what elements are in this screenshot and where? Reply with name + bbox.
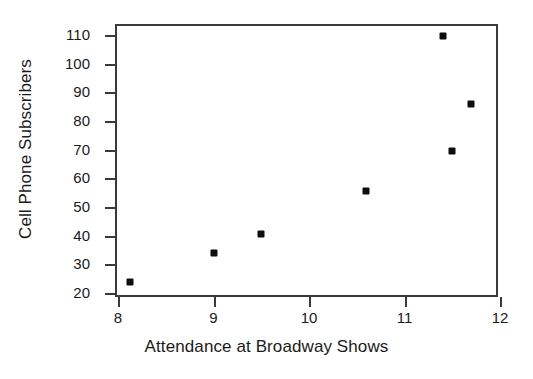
y-axis-tick	[105, 121, 115, 123]
x-axis-title: Attendance at Broadway Shows	[0, 336, 533, 358]
y-axis-tick-label: 20	[44, 285, 90, 301]
data-point	[127, 278, 134, 285]
data-point	[468, 100, 475, 107]
x-axis-tick-label: 11	[397, 310, 413, 326]
scatter-chart: 2030405060708090100110 89101112 Attendan…	[0, 0, 533, 379]
y-axis-tick	[105, 293, 115, 295]
y-axis-tick	[105, 207, 115, 209]
data-point	[210, 250, 217, 257]
y-axis-tick	[105, 264, 115, 266]
plot-area	[115, 24, 498, 297]
y-axis-tick	[105, 178, 115, 180]
y-axis-tick	[105, 64, 115, 66]
x-axis-tick	[500, 297, 502, 307]
y-axis-tick	[105, 236, 115, 238]
y-axis-tick-label: 70	[44, 142, 90, 158]
x-axis-tick	[309, 297, 311, 307]
x-axis-tick-label: 10	[301, 310, 318, 326]
data-point	[439, 33, 446, 40]
x-axis-tick-label: 12	[492, 310, 509, 326]
y-axis-tick-label: 110	[44, 27, 90, 43]
x-axis-tick-label: 9	[209, 310, 217, 326]
data-point	[449, 147, 456, 154]
x-axis-tick-label: 8	[114, 310, 122, 326]
y-axis-tick-label: 60	[44, 170, 90, 186]
y-axis-tick-label: 50	[44, 199, 90, 215]
x-axis-tick	[405, 297, 407, 307]
y-axis-tick	[105, 92, 115, 94]
y-axis-tick-label: 80	[44, 113, 90, 129]
y-axis-tick-label: 100	[44, 56, 90, 72]
y-axis-tick-label: 40	[44, 228, 90, 244]
x-axis-tick	[214, 297, 216, 307]
x-axis-tick	[118, 297, 120, 307]
data-point	[258, 230, 265, 237]
y-axis-title: Cell Phone Subscribers	[14, 13, 38, 286]
y-axis-tick-label: 90	[44, 84, 90, 100]
y-axis-tick-label: 30	[44, 256, 90, 272]
data-point	[363, 187, 370, 194]
y-axis-tick	[105, 150, 115, 152]
y-axis-tick	[105, 35, 115, 37]
